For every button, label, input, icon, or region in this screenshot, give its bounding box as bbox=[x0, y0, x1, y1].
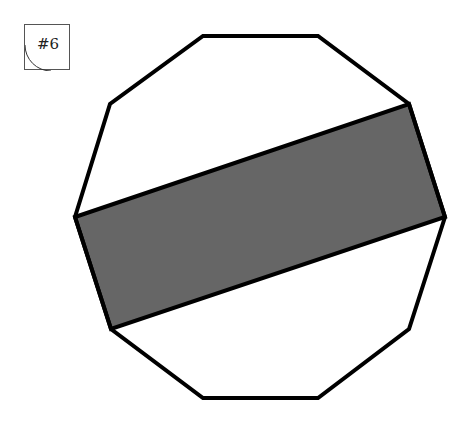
shaded-rectangle bbox=[75, 104, 445, 329]
decagon-figure bbox=[0, 0, 470, 428]
